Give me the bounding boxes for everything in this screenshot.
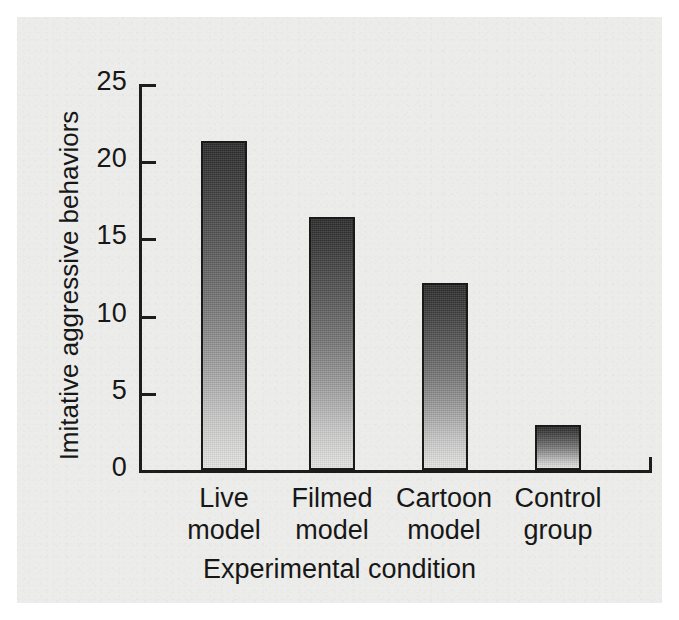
x-axis-line (139, 470, 652, 473)
bar-control-group (535, 425, 581, 470)
y-axis-line (139, 84, 142, 473)
y-axis-title: Imitative aggressive behaviors (54, 91, 85, 481)
bar-dither-texture (203, 143, 245, 468)
category-label-control-group: Control group (488, 483, 628, 546)
y-tick-10 (142, 316, 156, 319)
bar-filmed-model (309, 217, 355, 470)
category-label-line1: Cartoon (396, 483, 492, 513)
category-label-line2: group (488, 515, 628, 547)
y-tick-25 (142, 84, 156, 87)
category-label-line1: Filmed (291, 483, 372, 513)
y-tick-0 (142, 470, 156, 473)
bar-cartoon-model (422, 283, 468, 470)
bar-dither-texture (424, 285, 466, 468)
bar-live-model (201, 141, 247, 470)
category-label-line1: Control (514, 483, 601, 513)
y-tick-5 (142, 393, 156, 396)
x-axis-title: Experimental condition (17, 554, 662, 585)
bar-dither-texture (537, 427, 579, 468)
x-axis-end-cap (649, 457, 652, 473)
bar-dither-texture (311, 219, 353, 468)
y-tick-15 (142, 238, 156, 241)
chart-figure: 25 20 15 10 5 0 Imitative aggressive beh… (17, 17, 662, 603)
y-tick-20 (142, 161, 156, 164)
category-label-line1: Live (199, 483, 249, 513)
